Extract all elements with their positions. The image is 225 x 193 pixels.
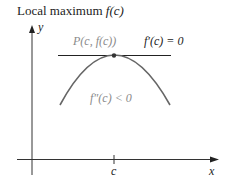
point-label: P(c, f(c)) <box>73 34 116 49</box>
x-axis-arrow-icon <box>210 157 219 163</box>
x-axis-label: x <box>209 164 214 179</box>
y-axis-label: y <box>38 20 43 35</box>
concavity-label: f″(c) < 0 <box>90 91 132 106</box>
tangent-label: f′(c) = 0 <box>144 34 183 49</box>
point-p <box>112 53 116 57</box>
tick-c-label: c <box>111 164 116 179</box>
y-axis-arrow-icon <box>29 25 35 33</box>
